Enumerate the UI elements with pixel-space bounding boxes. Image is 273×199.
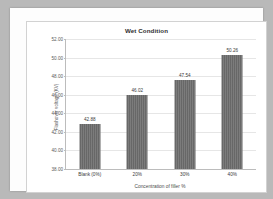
- bar-group: 50.2640%: [209, 39, 257, 169]
- document-sheet: Wet Condition Flashover voltage (KV) 38.…: [10, 8, 263, 191]
- x-axis-tick-label: Blank (0%): [78, 172, 101, 177]
- y-axis-tick-label: 52.00: [52, 37, 64, 42]
- y-axis-title: Flashover voltage (KV): [54, 84, 59, 131]
- screenshot-root: Wet Condition Flashover voltage (KV) 38.…: [0, 0, 273, 199]
- y-axis-tick-mark: [64, 169, 66, 170]
- bar-group: 42.88Blank (0%): [66, 39, 114, 169]
- y-axis-tick-label: 38.00: [52, 167, 64, 172]
- y-axis-tick-label: 42.00: [52, 129, 64, 134]
- x-axis-tick-label: 30%: [180, 172, 189, 177]
- bar-value-label: 50.26: [227, 48, 239, 53]
- plot-area: 38.0040.0042.0044.0046.0048.0050.0052.00…: [65, 39, 256, 170]
- bar[interactable]: [79, 124, 100, 169]
- x-axis-tick-label: 40%: [228, 172, 237, 177]
- bar-group: 46.0220%: [114, 39, 162, 169]
- y-axis-tick-label: 44.00: [52, 111, 64, 116]
- chart-container: Wet Condition Flashover voltage (KV) 38.…: [26, 21, 267, 193]
- x-axis-title: Concentration of filler %: [65, 184, 255, 189]
- y-axis-tick-label: 40.00: [52, 148, 64, 153]
- bar-group: 47.5430%: [161, 39, 209, 169]
- y-axis-tick-label: 50.00: [52, 55, 64, 60]
- bar-value-label: 46.02: [132, 88, 144, 93]
- y-axis-tick-label: 48.00: [52, 74, 64, 79]
- chart-title: Wet Condition: [27, 27, 266, 34]
- bar[interactable]: [174, 80, 195, 169]
- bar[interactable]: [222, 55, 243, 169]
- bar[interactable]: [127, 95, 148, 169]
- y-axis-tick-label: 46.00: [52, 92, 64, 97]
- bar-value-label: 47.54: [179, 73, 191, 78]
- x-axis-tick-label: 20%: [133, 172, 142, 177]
- bar-value-label: 42.88: [84, 117, 96, 122]
